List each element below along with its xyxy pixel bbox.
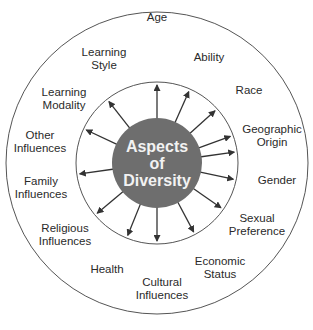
center-title-line-1: Aspects: [123, 138, 191, 155]
aspect-label-other-influences: OtherInfluences: [14, 129, 66, 154]
aspect-label-line: Learning: [82, 46, 127, 59]
center-title-line-3: Diversity: [123, 172, 191, 189]
aspect-label-line: Other: [14, 129, 66, 142]
aspect-label-ability: Ability: [194, 51, 225, 64]
aspect-label-line: Influences: [14, 141, 66, 154]
aspect-label-religious-influences: ReligiousInfluences: [39, 222, 91, 247]
aspect-label-age: Age: [147, 11, 167, 24]
aspect-label-line: Age: [147, 11, 167, 24]
arrow-icon: [199, 172, 233, 179]
aspect-label-line: Sexual: [229, 212, 285, 225]
aspect-label-line: Economic: [195, 255, 246, 268]
arrow-icon: [97, 191, 124, 213]
center-title-line-2: of: [123, 155, 191, 172]
aspect-label-line: Preference: [229, 224, 285, 237]
arrow-icon: [174, 92, 188, 124]
aspect-label-line: Learning: [42, 86, 87, 99]
aspect-label-line: Influences: [136, 288, 188, 301]
aspect-label-line: Cultural: [136, 276, 188, 289]
aspect-label-family-influences: FamilyInfluences: [15, 175, 67, 200]
aspect-label-line: Health: [90, 263, 123, 276]
center-title: Aspects of Diversity: [123, 138, 191, 189]
aspect-label-line: Religious: [39, 222, 91, 235]
arrow-icon: [197, 136, 230, 148]
aspect-label-learning-modality: LearningModality: [42, 86, 87, 111]
aspect-label-health: Health: [90, 263, 123, 276]
arrow-icon: [128, 203, 141, 235]
aspect-label-line: Influences: [15, 187, 67, 200]
aspect-label-line: Origin: [242, 135, 301, 148]
aspect-label-line: Influences: [39, 234, 91, 247]
aspect-label-line: Status: [195, 267, 246, 280]
aspect-label-line: Geographic: [242, 123, 301, 136]
arrow-icon: [86, 130, 118, 145]
arrow-icon: [200, 152, 235, 157]
arrow-icon: [80, 169, 115, 174]
aspect-label-line: Family: [15, 175, 67, 188]
aspect-label-geographic-origin: GeographicOrigin: [242, 123, 301, 148]
aspect-label-race: Race: [236, 84, 263, 97]
aspect-label-line: Gender: [258, 174, 296, 187]
aspect-label-line: Style: [82, 58, 127, 71]
aspect-label-line: Ability: [194, 51, 225, 64]
aspect-label-economic-status: EconomicStatus: [195, 255, 246, 280]
aspect-label-line: Race: [236, 84, 263, 97]
arrow-icon: [109, 102, 131, 130]
aspect-label-learning-style: LearningStyle: [82, 46, 127, 71]
arrow-icon: [192, 188, 221, 208]
aspect-label-cultural-influences: CulturalInfluences: [136, 276, 188, 301]
aspect-label-gender: Gender: [258, 174, 296, 187]
aspect-label-sexual-preference: SexualPreference: [229, 212, 285, 237]
arrow-icon: [189, 111, 215, 134]
aspect-label-line: Modality: [42, 98, 87, 111]
arrow-icon: [177, 201, 193, 232]
